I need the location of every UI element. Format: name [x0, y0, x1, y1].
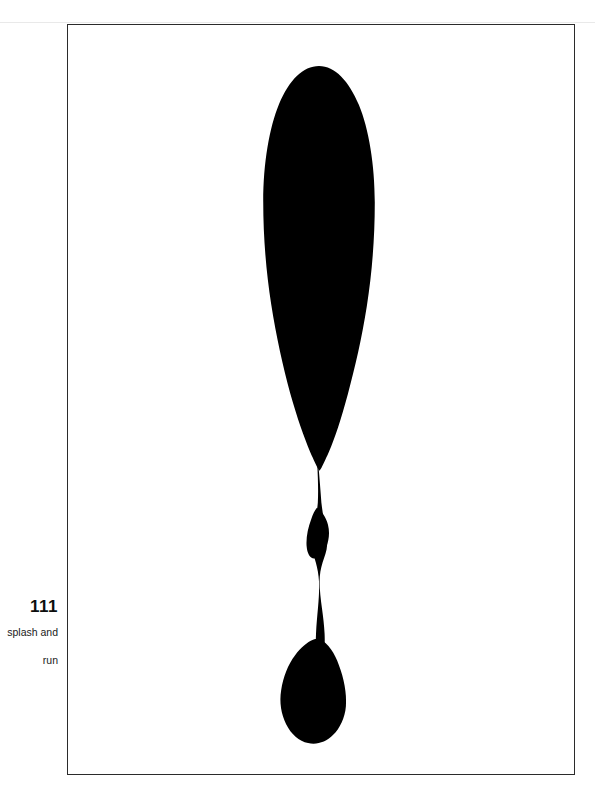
caption-line-1: splash and — [0, 618, 58, 646]
scanned-page: 111 splash and run — [0, 0, 595, 796]
caption-line-2: run — [0, 646, 58, 674]
plate-canvas — [68, 25, 574, 774]
caption-number: 111 — [0, 596, 58, 618]
plate-frame — [67, 24, 575, 775]
ink-splash-silhouette-icon — [68, 25, 574, 774]
margin-caption: 111 splash and run — [0, 596, 58, 674]
scan-edge-line — [0, 22, 595, 23]
